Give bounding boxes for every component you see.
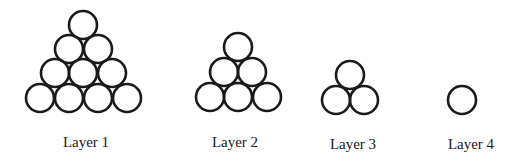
sphere-circle: [253, 83, 281, 111]
layer-3-label: Layer 3: [330, 136, 376, 152]
sphere-circle: [196, 83, 224, 111]
sphere-circle: [350, 86, 378, 114]
layer-2-label: Layer 2: [212, 134, 258, 150]
sphere-circle: [210, 58, 238, 86]
sphere-circle: [336, 61, 364, 89]
sphere-circle: [41, 59, 69, 87]
layer-3-group: [322, 61, 378, 114]
sphere-circle: [224, 33, 252, 61]
sphere-circle: [113, 84, 141, 112]
sphere-circle: [55, 84, 83, 112]
layer-1-label: Layer 1: [63, 134, 109, 150]
layer-4-label: Layer 4: [448, 136, 495, 152]
sphere-circle: [238, 58, 266, 86]
sphere-circle: [69, 59, 97, 87]
layer-4-group: [448, 86, 476, 114]
layer-2-group: [196, 33, 281, 111]
sphere-stacking-diagram: Layer 1 Layer 2 Layer 3 Layer 4: [0, 0, 518, 162]
sphere-circle: [98, 59, 126, 87]
sphere-circle: [224, 83, 252, 111]
sphere-circle: [26, 84, 54, 112]
sphere-circle: [448, 86, 476, 114]
sphere-circle: [322, 86, 350, 114]
layer-1-group: [26, 11, 141, 112]
sphere-circle: [84, 84, 112, 112]
